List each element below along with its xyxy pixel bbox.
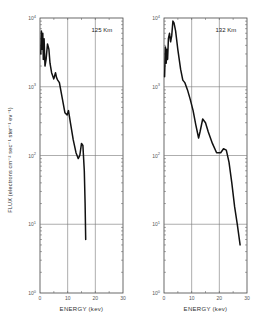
x-tick-label: 20 [217, 295, 223, 301]
flux-curve [165, 21, 241, 245]
x-tick-label: 10 [189, 295, 195, 301]
panel-125km: 0102030100101102103104ENERGY (kev)125 Km [28, 14, 126, 313]
y-axis-title: FLUX (electrons cm⁻² sec⁻¹ ster⁻¹ ev⁻¹) [7, 107, 13, 213]
y-tick-label: 100 [152, 289, 161, 297]
x-tick-label: 0 [39, 295, 42, 301]
y-tick-label: 104 [28, 14, 37, 22]
x-tick-label: 20 [93, 295, 99, 301]
y-tick-label: 104 [152, 14, 161, 22]
x-tick-label: 30 [120, 295, 126, 301]
x-axis-title: ENERGY (kev) [60, 306, 104, 312]
y-tick-label: 101 [152, 220, 161, 228]
altitude-label: 125 Km [91, 27, 112, 33]
y-tick-label: 100 [28, 289, 37, 297]
flux-curve [41, 31, 86, 240]
y-tick-label: 101 [28, 220, 37, 228]
x-tick-label: 30 [244, 295, 250, 301]
x-tick-label: 0 [163, 295, 166, 301]
panel-132km: 0102030100101102103104ENERGY (kev)132 Km [152, 14, 250, 313]
y-tick-label: 103 [152, 82, 161, 90]
x-tick-label: 10 [65, 295, 71, 301]
y-tick-label: 102 [152, 151, 161, 159]
altitude-label: 132 Km [215, 27, 236, 33]
x-axis-title: ENERGY (kev) [184, 306, 228, 312]
y-tick-label: 102 [28, 151, 37, 159]
figure: FLUX (electrons cm⁻² sec⁻¹ ster⁻¹ ev⁻¹) … [0, 0, 262, 322]
y-tick-label: 103 [28, 82, 37, 90]
